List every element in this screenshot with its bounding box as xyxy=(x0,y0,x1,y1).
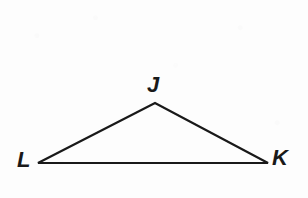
vertex-label-j: J xyxy=(147,74,159,96)
triangle-jkl-outline xyxy=(38,103,268,163)
geometry-figure: J L K xyxy=(0,0,308,198)
triangle-drawing xyxy=(0,0,308,198)
vertex-label-l: L xyxy=(17,149,30,171)
vertex-label-k: K xyxy=(272,147,288,169)
